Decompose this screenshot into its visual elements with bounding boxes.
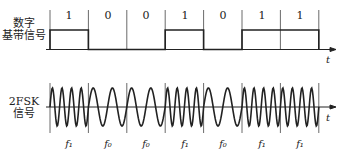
freq-label: f₁ bbox=[281, 138, 319, 149]
bit-label: 0 bbox=[127, 9, 165, 22]
baseband-waveform bbox=[50, 30, 319, 50]
time-axis-label-top: t bbox=[326, 54, 330, 65]
bit-label: 1 bbox=[243, 9, 281, 22]
freq-label: f₁ bbox=[243, 138, 281, 149]
freq-label: f₀ bbox=[127, 138, 165, 149]
baseband-label-line2: 基带信号 bbox=[0, 30, 48, 42]
fsk-label: 2FSK 信号 bbox=[0, 96, 48, 120]
bit-label: 0 bbox=[204, 9, 242, 22]
freq-label: f₀ bbox=[204, 138, 242, 149]
freq-label: f₀ bbox=[89, 138, 127, 149]
time-axis-label-bottom: t bbox=[326, 112, 330, 123]
bit-label: 1 bbox=[50, 9, 88, 22]
baseband-label: 数字 基带信号 bbox=[0, 18, 48, 42]
bit-label: 0 bbox=[89, 9, 127, 22]
fsk-label-line2: 信号 bbox=[0, 108, 48, 120]
freq-label: f₁ bbox=[166, 138, 204, 149]
bit-label: 1 bbox=[281, 9, 319, 22]
bit-label: 1 bbox=[166, 9, 204, 22]
freq-label: f₁ bbox=[50, 138, 88, 149]
